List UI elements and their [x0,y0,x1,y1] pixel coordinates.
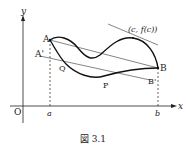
label-A: A [42,34,50,44]
label-B-prime: B' [148,77,156,86]
tick-b-label: b [155,109,160,118]
x-axis-label: x [178,101,183,111]
secant-AprimeBprime [40,56,150,80]
label-A-prime: A' [34,49,44,59]
label-B: B [160,63,167,73]
mean-value-theorem-diagram: y x O a b A A' Q P B B' (c, f(c)) 図 3.1 [0,0,187,152]
lower-curve [50,40,158,77]
x-axis-arrow-icon [171,104,177,108]
y-axis-label: y [20,6,27,16]
curves [50,37,158,77]
dashed-guides [50,40,158,106]
label-P: P [103,81,109,90]
label-Q: Q [59,64,66,73]
point-c [132,37,134,39]
figure-caption: 図 3.1 [80,134,106,144]
origin-label: O [14,107,21,117]
point-B [157,67,159,69]
tick-a-label: a [47,109,52,118]
label-tangent-point: (c, f(c)) [128,25,158,34]
